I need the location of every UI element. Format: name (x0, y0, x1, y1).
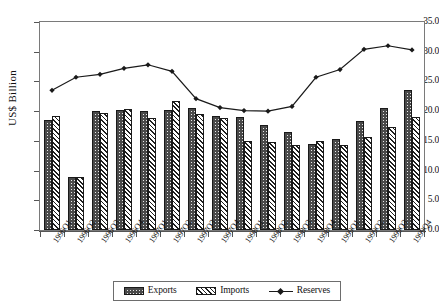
line-marker-icon (269, 287, 293, 295)
dotted-swatch-icon (124, 287, 144, 295)
reserves-marker (49, 88, 54, 93)
reserves-marker (145, 62, 150, 67)
plot-inner (40, 22, 424, 230)
chart-legend: ExportsImportsReserves (113, 281, 341, 301)
hatched-swatch-icon (196, 287, 216, 295)
x-axis-tick (40, 232, 41, 237)
y-axis-title: US$ Billion (6, 58, 18, 138)
reserves-marker (97, 72, 102, 77)
reserves-line-layer (40, 22, 424, 230)
reserves-marker (385, 43, 390, 48)
reserves-line (52, 46, 412, 111)
legend-label: Imports (220, 286, 249, 296)
plot-area (39, 21, 425, 231)
legend-entry: Reserves (269, 286, 331, 296)
reserves-marker (73, 75, 78, 80)
reserves-marker (241, 108, 246, 113)
legend-label: Exports (148, 286, 177, 296)
reserves-marker (121, 66, 126, 71)
reserves-marker (409, 47, 414, 52)
legend-label: Reserves (297, 286, 331, 296)
reserves-marker (265, 109, 270, 114)
chart-figure: US$ Billion 0.05.010.015.020.025.030.035… (0, 0, 439, 306)
reserves-marker (217, 105, 222, 110)
legend-entry: Imports (196, 286, 249, 296)
legend-entry: Exports (124, 286, 177, 296)
